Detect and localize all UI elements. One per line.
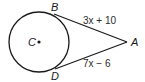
center-point-c [37,40,40,43]
label-b: B [51,1,58,13]
expression-da: 7x − 6 [83,58,111,69]
label-d: D [51,70,59,82]
label-c: C [28,36,36,48]
tangent-diagram: B A C D 3x + 10 7x − 6 [0,0,145,82]
expression-ba: 3x + 10 [83,15,117,26]
label-a: A [130,36,138,48]
